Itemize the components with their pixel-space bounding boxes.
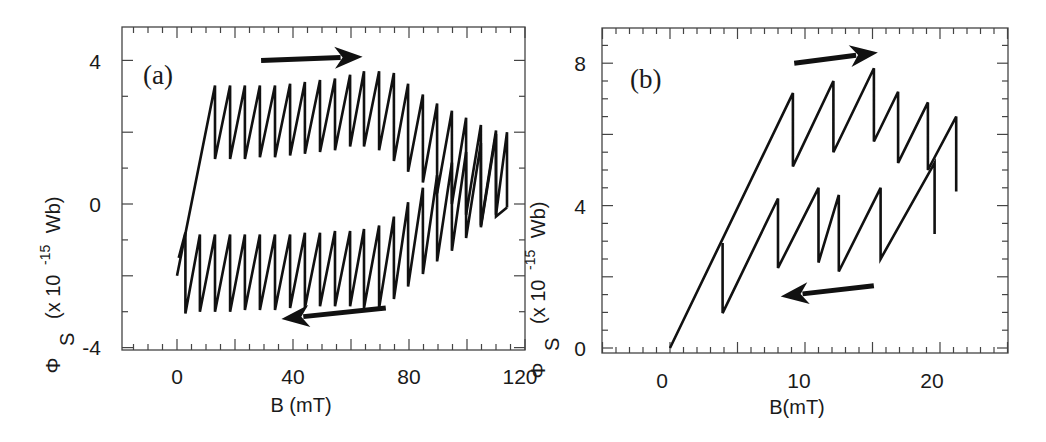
panel-a-ticks bbox=[122, 27, 525, 350]
arrow-right-icon bbox=[794, 45, 878, 67]
curve-sweep-up bbox=[177, 71, 507, 276]
panel-a-label: (a) bbox=[143, 60, 173, 90]
y-title-prefix: (x 10 bbox=[527, 280, 549, 324]
panel-b-label: (b) bbox=[630, 64, 661, 94]
y-tick-label: 0 bbox=[89, 193, 101, 216]
panel-b-curves bbox=[670, 68, 956, 348]
y-title-subscript: S bbox=[56, 333, 78, 346]
panel-b: (b) 0 10 20 8 4 0 B(mT) Φ S (x 10 -15 Wb… bbox=[517, 28, 1008, 418]
x-tick-label: 40 bbox=[281, 365, 304, 388]
panel-b-x-tick-labels: 0 10 20 bbox=[656, 369, 944, 392]
x-tick-label: 0 bbox=[171, 365, 183, 388]
arrow-right-icon bbox=[261, 47, 363, 69]
panel-a-frame bbox=[122, 27, 525, 350]
panel-b-ticks bbox=[602, 28, 1008, 353]
y-title-symbol: Φ bbox=[42, 358, 64, 374]
y-title-unit: Wb) bbox=[527, 202, 549, 239]
y-title-unit: Wb) bbox=[42, 197, 64, 234]
x-tick-label: 10 bbox=[787, 369, 810, 392]
y-tick-label: 0 bbox=[574, 337, 586, 360]
panel-b-y-tick-labels: 8 4 0 bbox=[574, 52, 586, 360]
y-title-exponent: -15 bbox=[522, 250, 538, 270]
arrow-left-icon bbox=[781, 282, 874, 304]
panel-b-frame bbox=[602, 28, 1008, 353]
y-title-symbol: Φ bbox=[527, 363, 549, 379]
svg-text:Φ S (x 10: Φ S (x 10 -15 Wb) bbox=[517, 202, 563, 379]
y-tick-label: 4 bbox=[89, 50, 101, 73]
panel-b-x-axis-title: B(mT) bbox=[769, 396, 825, 418]
svg-text:Φ S (x 10: Φ S (x 10 -15 Wb) bbox=[32, 197, 78, 374]
x-tick-label: 20 bbox=[920, 369, 943, 392]
panel-a-x-tick-labels: 0 40 80 120 bbox=[171, 365, 537, 388]
y-tick-label: 4 bbox=[574, 195, 586, 218]
y-tick-label: 8 bbox=[574, 52, 586, 75]
panel-a-curves bbox=[177, 71, 507, 313]
y-tick-label: -4 bbox=[82, 336, 101, 359]
y-title-prefix: (x 10 bbox=[42, 275, 64, 319]
panel-a-x-axis-title: B (mT) bbox=[270, 394, 331, 416]
curve-sweep-up bbox=[670, 68, 956, 348]
y-title-subscript: S bbox=[541, 338, 563, 351]
panel-a: (a) 0 40 80 120 4 0 -4 B (mT) Φ S (x 10 … bbox=[32, 27, 538, 416]
panel-a-y-tick-labels: 4 0 -4 bbox=[82, 50, 101, 359]
panel-b-arrows bbox=[781, 45, 878, 304]
figure: (a) 0 40 80 120 4 0 -4 B (mT) Φ S (x 10 … bbox=[0, 0, 1046, 442]
x-tick-label: 0 bbox=[656, 369, 668, 392]
x-tick-label: 80 bbox=[397, 365, 420, 388]
y-title-exponent: -15 bbox=[37, 245, 53, 265]
panel-a-y-axis-title: Φ S (x 10 -15 Wb) bbox=[32, 197, 78, 374]
arrow-left-icon bbox=[281, 305, 385, 327]
panel-b-y-axis-title: Φ S (x 10 -15 Wb) bbox=[517, 202, 563, 379]
